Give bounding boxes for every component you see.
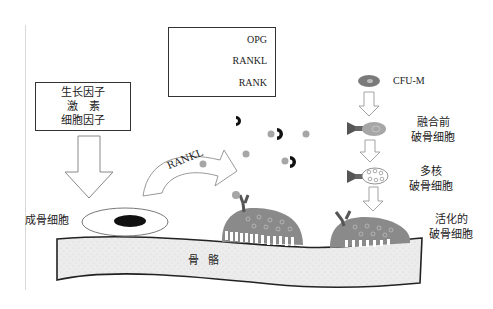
pre-fusion-line-1: 融合前 [408,115,458,130]
osteoclast-right [330,211,410,248]
activated-osteoclast-label: 活化的 破骨细胞 [424,212,478,242]
multinucleated-osteoclast-label: 多核 破骨细胞 [406,164,456,194]
legend-item-rankl: RANKL [169,53,275,71]
legend-item-opg: OPG [169,32,275,50]
down-arrow-3 [363,187,383,211]
osteoclast-left [222,191,303,246]
cfu-m-label: CFU-M [393,74,425,88]
factor-line-2: 激 素 [36,100,130,114]
legend-label-rank: RANK [239,77,267,88]
bone-label: 骨 骼 [188,254,223,268]
down-arrow-2 [360,140,380,162]
activated-line-2: 破骨细胞 [424,227,478,242]
multinucleated-osteoclast-cell [347,168,388,184]
osteoblast-label: 成骨细胞 [25,214,69,228]
pre-fusion-osteoclast-cell [347,122,386,136]
osteoblast-cell [82,208,168,236]
pre-fusion-line-2: 破骨细胞 [408,130,458,145]
legend-label-rankl: RANKL [233,55,267,66]
pre-fusion-osteoclast-label: 融合前 破骨细胞 [408,115,458,145]
down-arrow-factors [65,136,113,198]
legend-box: OPG RANKL RANK [168,27,276,97]
activated-line-1: 活化的 [424,212,478,227]
legend-item-rank: RANK [169,75,275,93]
legend-label-opg: OPG [247,34,267,45]
multinucleated-line-1: 多核 [406,164,456,179]
factor-line-3: 细胞因子 [36,114,130,128]
factor-line-1: 生长因子 [36,86,130,100]
growth-factors-box: 生长因子 激 素 细胞因子 [35,82,131,131]
cfu-m-cell [358,75,380,87]
down-arrow-1 [359,92,379,116]
multinucleated-line-2: 破骨细胞 [406,179,456,194]
